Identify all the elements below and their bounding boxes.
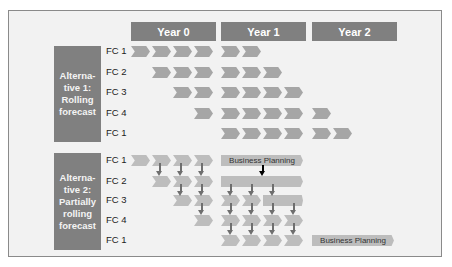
alt1-row-label: FC 2 (106, 66, 127, 78)
year-1-header: Year 1 (221, 22, 306, 41)
down-arrow-icon (198, 184, 205, 197)
down-arrow-icon (269, 184, 276, 197)
alt1-row-label: FC 1 (106, 45, 127, 57)
down-arrow-icon (156, 163, 163, 177)
down-arrow-icon (269, 203, 276, 216)
down-arrow-icon (227, 203, 234, 216)
alt2-row-label: FC 3 (106, 194, 127, 206)
planning-down-arrow-icon (259, 165, 266, 179)
alternative-2-text: Alterna-tive 2: Partially rolling foreca… (57, 172, 99, 232)
alt2-row-label: FC 1 (106, 234, 127, 246)
business-planning-label: Business Planning (320, 236, 386, 245)
down-arrow-icon (198, 203, 205, 216)
year-0-header: Year 0 (131, 22, 216, 41)
down-arrow-icon (227, 184, 234, 197)
alternative-1-label: Alterna-tive 1: Rolling forecast (54, 46, 101, 142)
alt2-row-label: FC 1 (106, 154, 127, 166)
down-arrow-icon (269, 223, 276, 236)
alt1-row-label: FC 4 (106, 107, 127, 119)
business-planning-bar-year2: Business Planning (312, 235, 394, 246)
alt2-row-label: FC 2 (106, 175, 127, 187)
business-planning-label: Business Planning (229, 156, 295, 165)
down-arrow-icon (177, 184, 184, 197)
down-arrow-icon (248, 223, 255, 236)
alt1-row-label: FC 1 (106, 127, 127, 139)
down-arrow-icon (227, 223, 234, 236)
down-arrow-icon (248, 184, 255, 197)
down-arrow-icon (177, 163, 184, 177)
alternative-2-label: Alterna-tive 2: Partially rolling foreca… (54, 153, 101, 250)
down-arrow-icon (290, 223, 297, 236)
alternative-1-text: Alterna-tive 1: Rolling forecast (59, 70, 97, 118)
alt2-row-label: FC 4 (106, 214, 127, 226)
year-2-header: Year 2 (312, 22, 397, 41)
down-arrow-icon (290, 203, 297, 216)
down-arrow-icon (198, 163, 205, 177)
alt1-row-label: FC 3 (106, 86, 127, 98)
down-arrow-icon (248, 203, 255, 216)
